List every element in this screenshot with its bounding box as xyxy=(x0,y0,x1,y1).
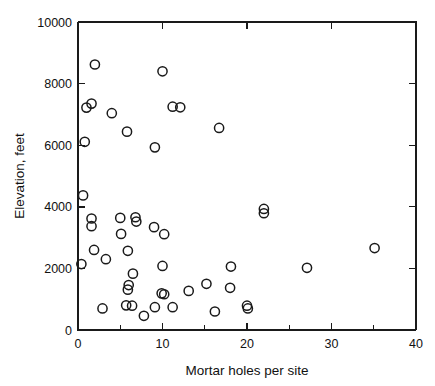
y-axis-title: Elevation, feet xyxy=(12,133,27,219)
chart-canvas: 0 2000 4000 6000 8000 10000 0 10 20 30 4… xyxy=(0,0,435,386)
y-ticklabel-4000: 4000 xyxy=(44,200,72,214)
data-point xyxy=(150,143,159,152)
data-point xyxy=(168,303,177,312)
data-point xyxy=(116,229,125,238)
axis-frame-top-right xyxy=(78,22,416,330)
y-axis-tick-labels: 0 2000 4000 6000 8000 10000 xyxy=(37,16,72,338)
x-ticklabel-40: 40 xyxy=(409,337,423,351)
data-point xyxy=(101,255,110,264)
data-point xyxy=(78,191,87,200)
y-ticklabel-2000: 2000 xyxy=(44,262,72,276)
axis-frame-left-bottom xyxy=(78,22,416,330)
y-ticklabel-8000: 8000 xyxy=(44,77,72,91)
data-point xyxy=(210,307,219,316)
data-point xyxy=(226,283,235,292)
data-point xyxy=(160,230,169,239)
data-point xyxy=(184,286,193,295)
data-point xyxy=(202,279,211,288)
data-point xyxy=(226,262,235,271)
data-point xyxy=(149,223,158,232)
data-point xyxy=(123,246,132,255)
data-point xyxy=(116,213,125,222)
data-point xyxy=(128,269,137,278)
scatter-plot-figure: 0 2000 4000 6000 8000 10000 0 10 20 30 4… xyxy=(0,0,435,386)
y-axis-major-ticks xyxy=(78,22,85,330)
x-axis-title: Mortar holes per site xyxy=(185,363,308,378)
data-point xyxy=(89,245,98,254)
x-ticklabel-10: 10 xyxy=(156,337,170,351)
data-point xyxy=(158,67,167,76)
y-ticklabel-10000: 10000 xyxy=(37,16,72,30)
y-ticklabel-6000: 6000 xyxy=(44,139,72,153)
data-point xyxy=(90,60,99,69)
data-point xyxy=(127,301,136,310)
data-point xyxy=(98,304,107,313)
y-ticklabel-0: 0 xyxy=(65,324,72,338)
x-ticklabel-30: 30 xyxy=(325,337,339,351)
y-axis-right-ticks xyxy=(409,84,416,269)
data-point xyxy=(107,109,116,118)
data-point xyxy=(122,127,131,136)
x-ticklabel-0: 0 xyxy=(75,337,82,351)
data-point xyxy=(139,311,148,320)
plot-frame xyxy=(78,22,416,330)
data-point xyxy=(370,243,379,252)
x-ticklabel-20: 20 xyxy=(240,337,254,351)
data-point xyxy=(302,263,311,272)
scatter-series xyxy=(77,60,379,321)
x-axis-tick-labels: 0 10 20 30 40 xyxy=(75,337,423,351)
data-point xyxy=(215,123,224,132)
data-point xyxy=(150,303,159,312)
x-axis-major-ticks xyxy=(78,323,416,330)
data-point xyxy=(158,261,167,270)
